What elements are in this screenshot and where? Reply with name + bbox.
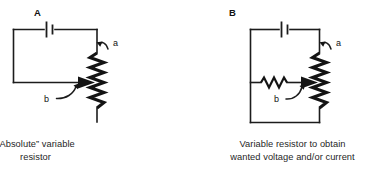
terminal-label-b-panel-b: b [274,94,279,104]
label-a-leader-a [97,42,109,49]
panel-a-caption-line-1: “Absolute” variable [0,138,133,151]
variable-resistor-b [313,53,327,108]
panel-b-caption-line-2: wanted voltage and/or current [195,151,390,164]
panel-a-caption: “Absolute” variable resistor [0,138,133,163]
panel-b-caption-line-1: Variable resistor to obtain [195,138,390,151]
load-resistor-b [261,78,287,88]
variable-resistor-a [90,53,104,108]
circuit-diagram-b: a b [195,0,390,135]
panel-b-caption: Variable resistor to obtain wanted volta… [195,138,390,163]
circuit-panel-a: A [0,0,195,183]
circuit-diagram-a: a b [0,0,195,135]
panel-a-caption-line-2: resistor [0,151,133,164]
label-b-leader-b [286,84,305,99]
label-a-leader-b [320,42,332,49]
terminal-label-a-panel-a: a [113,38,118,48]
figure-canvas: A [0,0,390,183]
battery-symbol-b [282,22,288,38]
terminal-label-a-panel-b: a [336,38,341,48]
battery-symbol-a [47,22,53,38]
terminal-label-b-panel-a: b [44,94,49,104]
circuit-panel-b: B [195,0,390,183]
label-b-leader-a [57,83,80,98]
